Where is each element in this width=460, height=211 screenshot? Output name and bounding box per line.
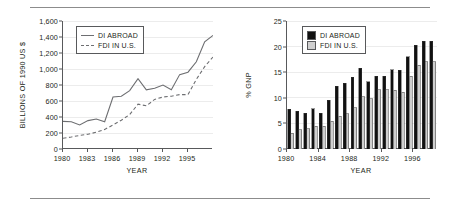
y-tick-mark (59, 21, 62, 22)
y-tick-label: 800 (46, 81, 58, 90)
y-tick-mark (59, 37, 62, 38)
bar-di-abroad-1985 (327, 100, 330, 149)
bar-fdi-in-u-s-1981 (299, 130, 302, 149)
bar-fdi-in-u-s-1992 (386, 90, 389, 149)
bar-di-abroad-1996 (414, 45, 417, 149)
bar-di-abroad-1983 (312, 109, 315, 149)
right-legend-item-di-abroad: DI ABROAD (307, 30, 360, 40)
y-tick-mark (59, 133, 62, 134)
bar-di-abroad-1989 (359, 68, 362, 149)
top-rule (30, 7, 430, 8)
y-tick-mark (59, 85, 62, 86)
bar-di-abroad-1997 (422, 41, 425, 149)
left-x-axis-label: YEAR (62, 166, 212, 175)
y-tick-label: 400 (46, 113, 58, 122)
x-tick-label: 1995 (179, 154, 196, 163)
bar-di-abroad-1981 (296, 111, 299, 149)
bar-fdi-in-u-s-1990 (370, 99, 373, 149)
right-bars-group (288, 41, 436, 149)
y-tick-label: 25 (274, 17, 282, 26)
bottom-rule (30, 198, 430, 199)
bar-fdi-in-u-s-1993 (393, 90, 396, 149)
bar-di-abroad-1987 (343, 83, 346, 149)
left-plot-area: 02004006008001,0001,2001,4001,600 198019… (62, 21, 212, 149)
y-tick-mark (283, 123, 286, 124)
y-tick-label: 10 (274, 93, 282, 102)
bar-fdi-in-u-s-1980 (291, 133, 294, 149)
bar-di-abroad-1998 (430, 41, 433, 149)
bar-fdi-in-u-s-1995 (409, 76, 412, 149)
x-tick-label: 1992 (154, 154, 171, 163)
left-legend-item-fdi-in-us: FDI IN U.S. (81, 40, 138, 50)
bar-fdi-in-u-s-1984 (322, 126, 325, 149)
x-tick-label: 1992 (372, 154, 389, 163)
bar-di-abroad-1980 (288, 109, 291, 149)
bar-fdi-in-u-s-1988 (354, 108, 357, 149)
y-tick-mark (283, 21, 286, 22)
x-tick-mark (187, 149, 188, 152)
x-tick-mark (162, 149, 163, 152)
x-tick-label: 1989 (129, 154, 146, 163)
black-box-swatch-icon (307, 31, 316, 40)
y-tick-mark (283, 46, 286, 47)
bar-di-abroad-1995 (406, 57, 409, 149)
bar-fdi-in-u-s-1997 (425, 62, 428, 149)
y-tick-label: 1,000 (39, 65, 58, 74)
right-legend-label-fdi-in-us: FDI IN U.S. (320, 42, 358, 49)
y-tick-mark (59, 117, 62, 118)
y-tick-label: 1,200 (39, 49, 58, 58)
right-legend: DI ABROAD FDI IN U.S. (302, 26, 366, 54)
gray-box-swatch-icon (307, 41, 316, 50)
bar-di-abroad-1982 (304, 113, 307, 149)
right-x-axis-label: YEAR (286, 166, 436, 175)
y-tick-mark (283, 72, 286, 73)
bar-fdi-in-u-s-1994 (401, 92, 404, 149)
bar-fdi-in-u-s-1989 (362, 97, 365, 149)
panel-bar-chart: % GNP 0510152025 19801984198819921996 DI… (238, 14, 450, 190)
y-tick-label: 1,600 (39, 17, 58, 26)
x-tick-label: 1988 (341, 154, 358, 163)
x-tick-label: 1984 (309, 154, 326, 163)
bar-fdi-in-u-s-1998 (433, 62, 436, 149)
x-tick-mark (318, 149, 319, 152)
right-plot-area: 0510152025 19801984198819921996 DI ABROA… (286, 21, 436, 149)
bar-di-abroad-1994 (398, 70, 401, 149)
y-tick-mark (59, 53, 62, 54)
bar-di-abroad-1988 (351, 77, 354, 149)
x-tick-label: 1980 (54, 154, 71, 163)
y-tick-label: 15 (274, 68, 282, 77)
bar-di-abroad-1990 (367, 82, 370, 149)
bar-fdi-in-u-s-1986 (338, 116, 341, 149)
x-tick-mark (412, 149, 413, 152)
y-tick-mark (59, 69, 62, 70)
x-tick-label: 1986 (104, 154, 121, 163)
left-legend: DI ABROAD FDI IN U.S. (76, 26, 144, 54)
left-legend-item-di-abroad: DI ABROAD (81, 30, 138, 40)
x-tick-label: 1983 (79, 154, 96, 163)
solid-line-swatch-icon (81, 32, 94, 39)
bar-di-abroad-1986 (335, 86, 338, 149)
bar-di-abroad-1993 (391, 70, 394, 149)
bar-di-abroad-1984 (319, 113, 322, 149)
bar-fdi-in-u-s-1983 (314, 126, 317, 149)
left-legend-label-di-abroad: DI ABROAD (98, 32, 138, 39)
bar-fdi-in-u-s-1982 (307, 129, 310, 149)
figure-container: BILLIONS OF 1990 US $ 02004006008001,000… (0, 0, 460, 211)
dashed-line-swatch-icon (81, 42, 94, 49)
y-tick-label: 0 (54, 145, 58, 154)
x-tick-mark (87, 149, 88, 152)
y-tick-label: 0 (278, 145, 282, 154)
right-y-axis-label: % GNP (244, 72, 253, 97)
x-tick-mark (349, 149, 350, 152)
x-tick-mark (137, 149, 138, 152)
y-tick-label: 5 (278, 119, 282, 128)
right-legend-item-fdi-in-us: FDI IN U.S. (307, 40, 360, 50)
x-tick-mark (112, 149, 113, 152)
y-tick-label: 600 (46, 97, 58, 106)
x-tick-mark (286, 149, 287, 152)
y-tick-label: 20 (274, 42, 282, 51)
x-tick-mark (62, 149, 63, 152)
bar-fdi-in-u-s-1985 (330, 121, 333, 149)
bar-di-abroad-1991 (375, 76, 378, 149)
y-tick-label: 1,400 (39, 33, 58, 42)
